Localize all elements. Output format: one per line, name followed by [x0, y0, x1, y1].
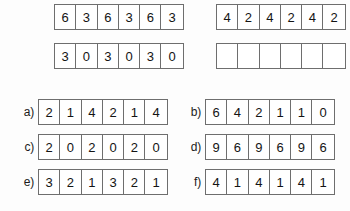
pattern-row-top-2: 3 0 3 0 3 0 — [0, 43, 350, 69]
number-cell: 1 — [270, 170, 291, 194]
empty-answer-cell[interactable] — [238, 44, 259, 68]
number-cell: 3 — [140, 44, 161, 68]
number-cell: 3 — [98, 44, 119, 68]
number-cell: 2 — [249, 100, 270, 124]
number-grid: 2 1 4 2 1 4 — [38, 99, 168, 125]
number-cell: 6 — [98, 5, 119, 29]
pattern-option-a[interactable]: a) 2 1 4 2 1 4 — [18, 99, 168, 125]
number-cell: 4 — [217, 5, 238, 29]
number-cell: 0 — [312, 100, 333, 124]
number-cell: 4 — [145, 100, 166, 124]
number-cell: 4 — [206, 170, 227, 194]
pattern-group-top-1-left: 6 3 6 3 6 3 — [34, 4, 184, 30]
number-cell: 1 — [291, 100, 312, 124]
empty-answer-cell[interactable] — [281, 44, 302, 68]
number-cell: 1 — [270, 100, 291, 124]
number-cell: 3 — [76, 5, 97, 29]
empty-answer-cell[interactable] — [260, 44, 281, 68]
number-cell: 3 — [55, 44, 76, 68]
number-pattern-worksheet: 6 3 6 3 6 3 4 2 4 2 4 2 3 — [0, 0, 350, 211]
number-cell: 9 — [291, 135, 312, 159]
number-cell: 0 — [103, 135, 124, 159]
pattern-row-ab: a) 2 1 4 2 1 4 b) 6 4 2 1 1 0 — [0, 99, 350, 125]
number-cell: 4 — [302, 5, 323, 29]
number-cell: 6 — [270, 135, 291, 159]
number-cell: 3 — [119, 5, 140, 29]
number-grid: 4 1 4 1 4 1 — [205, 169, 335, 195]
pattern-group-top-2-left: 3 0 3 0 3 0 — [34, 43, 184, 69]
option-label-f: f) — [185, 170, 201, 195]
empty-answer-cell[interactable] — [323, 44, 344, 68]
option-label-a: a) — [18, 100, 34, 125]
empty-answer-grid — [216, 43, 346, 69]
pattern-option-f[interactable]: f) 4 1 4 1 4 1 — [185, 169, 335, 195]
number-grid: 6 3 6 3 6 3 — [54, 4, 184, 30]
option-label-b: b) — [185, 100, 201, 125]
number-cell: 1 — [60, 100, 81, 124]
number-cell: 0 — [60, 135, 81, 159]
number-cell: 6 — [206, 100, 227, 124]
number-cell: 1 — [124, 100, 145, 124]
number-cell: 4 — [260, 5, 281, 29]
number-cell: 2 — [60, 170, 81, 194]
number-cell: 2 — [39, 135, 60, 159]
number-cell: 0 — [145, 135, 166, 159]
pattern-group-top-2-right-empty — [196, 43, 346, 69]
number-cell: 4 — [82, 100, 103, 124]
number-cell: 6 — [312, 135, 333, 159]
number-cell: 6 — [227, 135, 248, 159]
number-cell: 9 — [206, 135, 227, 159]
number-cell: 9 — [249, 135, 270, 159]
number-cell: 2 — [124, 135, 145, 159]
number-grid: 9 6 9 6 9 6 — [205, 134, 335, 160]
pattern-group-top-1-right: 4 2 4 2 4 2 — [196, 4, 346, 30]
number-cell: 2 — [103, 100, 124, 124]
option-label-d: d) — [185, 135, 201, 160]
pattern-option-b[interactable]: b) 6 4 2 1 1 0 — [185, 99, 335, 125]
number-cell: 2 — [124, 170, 145, 194]
pattern-row-top-1: 6 3 6 3 6 3 4 2 4 2 4 2 — [0, 4, 350, 30]
pattern-row-ef: e) 3 2 1 3 2 1 f) 4 1 4 1 4 1 — [0, 169, 350, 195]
number-cell: 2 — [39, 100, 60, 124]
number-cell: 1 — [82, 170, 103, 194]
number-cell: 1 — [312, 170, 333, 194]
number-cell: 3 — [39, 170, 60, 194]
number-cell: 3 — [103, 170, 124, 194]
number-grid: 2 0 2 0 2 0 — [38, 134, 168, 160]
empty-answer-cell[interactable] — [302, 44, 323, 68]
number-cell: 2 — [323, 5, 344, 29]
number-grid: 3 2 1 3 2 1 — [38, 169, 168, 195]
option-label-c: c) — [18, 135, 34, 160]
number-cell: 4 — [249, 170, 270, 194]
number-cell: 0 — [76, 44, 97, 68]
number-cell: 3 — [161, 5, 182, 29]
number-grid: 6 4 2 1 1 0 — [205, 99, 335, 125]
number-cell: 4 — [227, 100, 248, 124]
number-cell: 2 — [82, 135, 103, 159]
number-cell: 1 — [227, 170, 248, 194]
pattern-option-d[interactable]: d) 9 6 9 6 9 6 — [185, 134, 335, 160]
number-grid: 4 2 4 2 4 2 — [216, 4, 346, 30]
pattern-row-cd: c) 2 0 2 0 2 0 d) 9 6 9 6 9 6 — [0, 134, 350, 160]
pattern-option-e[interactable]: e) 3 2 1 3 2 1 — [18, 169, 168, 195]
number-cell: 4 — [291, 170, 312, 194]
number-cell: 0 — [161, 44, 182, 68]
empty-answer-cell[interactable] — [217, 44, 238, 68]
number-cell: 6 — [55, 5, 76, 29]
number-cell: 1 — [145, 170, 166, 194]
option-label-e: e) — [18, 170, 34, 195]
number-grid: 3 0 3 0 3 0 — [54, 43, 184, 69]
number-cell: 2 — [238, 5, 259, 29]
number-cell: 2 — [281, 5, 302, 29]
pattern-option-c[interactable]: c) 2 0 2 0 2 0 — [18, 134, 168, 160]
number-cell: 6 — [140, 5, 161, 29]
number-cell: 0 — [119, 44, 140, 68]
